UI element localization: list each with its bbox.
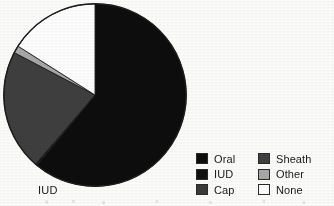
legend-label-oral: Oral <box>214 153 235 165</box>
legend-label-none: None <box>276 184 303 196</box>
legend-label-other: Other <box>276 168 304 180</box>
pie-svg <box>3 3 187 187</box>
legend-swatch-cap <box>196 184 208 195</box>
legend-item-cap[interactable]: Cap <box>196 182 258 198</box>
legend-label-sheath: Sheath <box>276 153 311 165</box>
legend-item-oral[interactable]: Oral <box>196 151 258 167</box>
legend-item-iud[interactable]: IUD <box>196 167 258 183</box>
legend-swatch-sheath <box>258 153 270 164</box>
legend-swatch-other <box>258 169 270 180</box>
legend-item-none[interactable]: None <box>258 182 332 198</box>
pie-chart-plot-area <box>3 3 187 187</box>
legend-label-iud: IUD <box>214 168 233 180</box>
legend-swatch-none <box>258 184 270 195</box>
pie-slice-group <box>4 4 186 186</box>
legend-item-sheath[interactable]: Sheath <box>258 151 332 167</box>
slice-callout-label-iud: IUD <box>38 184 58 197</box>
legend-label-cap: Cap <box>214 184 234 196</box>
pie-chart-figure: IUD Oral Sheath IUD Other Cap None <box>0 0 334 206</box>
scan-artifact-strip <box>0 198 334 206</box>
legend-item-other[interactable]: Other <box>258 167 332 183</box>
legend-swatch-oral <box>196 153 208 164</box>
legend-swatch-iud <box>196 169 208 180</box>
chart-legend: Oral Sheath IUD Other Cap None <box>196 151 332 198</box>
